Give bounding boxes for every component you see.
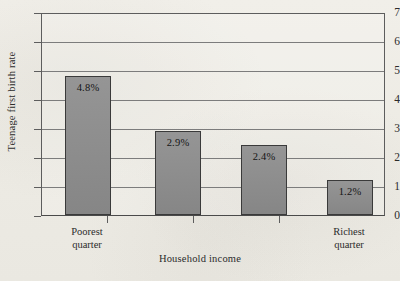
x-tick-label-richest-line2: quarter bbox=[299, 238, 399, 251]
bar-value-label-2: 2.9% bbox=[167, 137, 190, 148]
bar-value-label-1: 4.8% bbox=[77, 82, 100, 93]
y-tick-mark-3 bbox=[34, 129, 41, 130]
y-axis-title: Teenage first birth rate bbox=[6, 27, 17, 177]
x-tick-mark-3 bbox=[279, 216, 280, 223]
x-tick-label-richest: Richest quarter bbox=[299, 225, 399, 251]
y-tick-mark-6 bbox=[34, 42, 41, 43]
x-axis-title: Household income bbox=[0, 253, 400, 264]
x-tick-label-richest-line1: Richest bbox=[299, 225, 399, 238]
gridline-5 bbox=[42, 71, 384, 72]
x-tick-label-poorest-line1: Poorest bbox=[37, 225, 137, 238]
y-tick-mark-2 bbox=[34, 158, 41, 159]
y-tick-mark-0 bbox=[34, 216, 41, 217]
y-tick-mark-5 bbox=[34, 71, 41, 72]
plot-area: 4.8% 2.9% 2.4% 1.2% bbox=[41, 13, 385, 216]
y-tick-mark-7 bbox=[34, 13, 41, 14]
bar-second-quarter[interactable]: 2.9% bbox=[155, 131, 201, 215]
bar-third-quarter[interactable]: 2.4% bbox=[241, 145, 287, 215]
bar-chart-figure: 7 6 5 4 3 2 1 0 Teenage first birth rate… bbox=[0, 0, 400, 281]
x-tick-label-poorest-line2: quarter bbox=[37, 238, 137, 251]
bar-value-label-4: 1.2% bbox=[339, 186, 362, 197]
x-tick-mark-1 bbox=[107, 216, 108, 223]
bar-poorest-quarter[interactable]: 4.8% bbox=[65, 76, 111, 215]
x-tick-label-poorest: Poorest quarter bbox=[37, 225, 137, 251]
x-tick-mark-2 bbox=[193, 216, 194, 223]
y-tick-mark-1 bbox=[34, 187, 41, 188]
bar-richest-quarter[interactable]: 1.2% bbox=[327, 180, 373, 215]
y-tick-mark-4 bbox=[34, 100, 41, 101]
gridline-6 bbox=[42, 42, 384, 43]
bar-value-label-3: 2.4% bbox=[253, 151, 276, 162]
